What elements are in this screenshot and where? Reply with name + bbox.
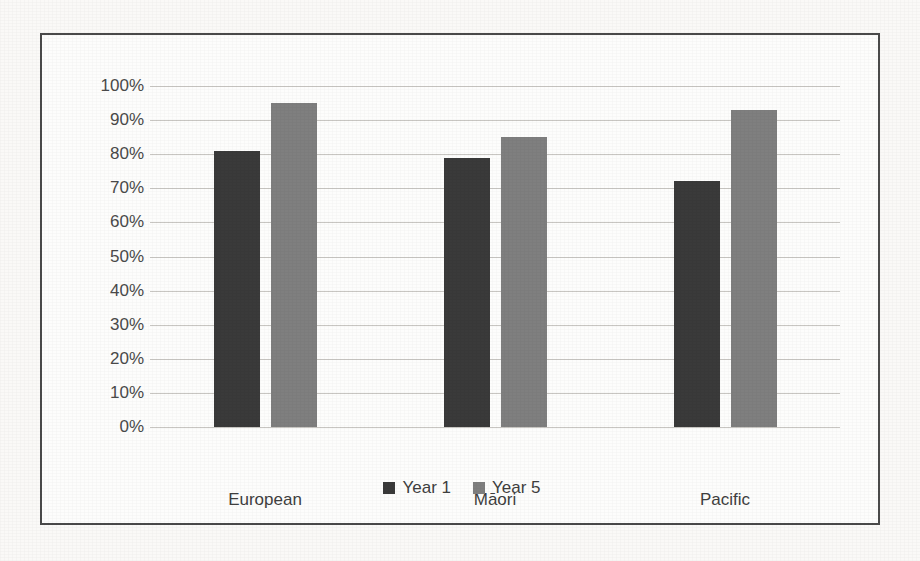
y-axis-tick-label: 40% [84, 281, 144, 301]
gridline [150, 427, 840, 428]
y-axis-tick-label: 100% [84, 76, 144, 96]
legend-swatch-icon-year-1 [383, 482, 395, 494]
chart-frame: 100%90%80%70%60%50%40%30%20%10%0% Europe… [40, 33, 880, 525]
y-axis-tick-label: 80% [84, 144, 144, 164]
legend-label-year-5: Year 5 [492, 478, 541, 498]
chart-legend: Year 1 Year 5 [42, 478, 882, 498]
legend-label-year-1: Year 1 [402, 478, 451, 498]
scanned-page-background: 100%90%80%70%60%50%40%30%20%10%0% Europe… [0, 0, 920, 561]
y-axis-tick-label: 30% [84, 315, 144, 335]
y-axis-tick-label: 10% [84, 383, 144, 403]
y-axis-tick-label: 0% [84, 417, 144, 437]
legend-swatch-icon-year-5 [473, 482, 485, 494]
y-axis-tick-label: 20% [84, 349, 144, 369]
y-axis-tick-label: 50% [84, 247, 144, 267]
y-axis-tick-label: 70% [84, 178, 144, 198]
legend-item-year-5[interactable]: Year 5 [473, 478, 541, 498]
legend-item-year-1[interactable]: Year 1 [383, 478, 451, 498]
y-axis-tick-label: 60% [84, 212, 144, 232]
x-axis: EuropeanMāoriPacific [150, 86, 840, 427]
y-axis: 100%90%80%70%60%50%40%30%20%10%0% [80, 86, 144, 427]
y-axis-tick-label: 90% [84, 110, 144, 130]
